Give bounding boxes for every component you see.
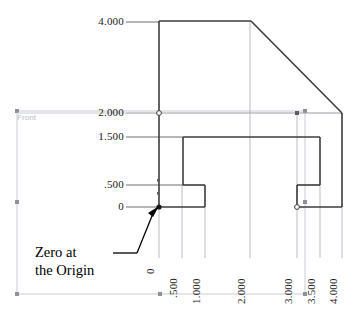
construction-lines	[159, 22, 342, 258]
sketch-plane-label: Front	[17, 113, 36, 122]
dim-label-vertical-2000[interactable]: 2.000	[86, 106, 124, 118]
dim-label-vertical-4000[interactable]: 4.000	[86, 15, 124, 27]
dim-label-horizontal-0[interactable]: 0	[144, 268, 156, 274]
origin-callout-line2: the Origin	[35, 261, 94, 279]
dim-label-horizontal-3500[interactable]: 3.500	[305, 278, 317, 304]
profile-point-markers[interactable]	[156, 111, 299, 210]
dim-label-horizontal-3000[interactable]: 3.000	[282, 278, 294, 304]
dim-label-vertical-1500[interactable]: 1.500	[86, 130, 124, 142]
dim-label-horizontal-0500[interactable]: .500	[167, 278, 179, 298]
dim-label-horizontal-4000[interactable]: 4.000	[327, 278, 339, 304]
dim-label-vertical-0500[interactable]: .500	[86, 178, 124, 190]
dim-label-horizontal-1000[interactable]: 1.000	[190, 278, 202, 304]
origin-callout-line1: Zero at	[35, 243, 76, 261]
origin-callout-leader	[113, 206, 159, 253]
dim-label-vertical-0[interactable]: 0	[86, 200, 124, 212]
dimension-leader-lines	[17, 22, 342, 207]
dim-label-horizontal-2000[interactable]: 2.000	[235, 278, 247, 304]
